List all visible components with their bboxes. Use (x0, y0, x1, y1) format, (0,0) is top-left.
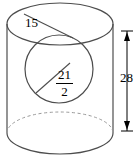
label-top-radius: 15 (25, 16, 38, 29)
fraction-denominator: 2 (56, 85, 73, 99)
hidden-dashed-ellipse (7, 112, 113, 133)
fraction-numerator: 21 (56, 68, 73, 82)
bottom-ellipse (7, 133, 113, 154)
dimension-arrow-up (124, 32, 130, 41)
fraction: 21 2 (56, 68, 73, 98)
geometry-figure: 15 28 21 2 (0, 0, 140, 167)
label-cylinder-height: 28 (120, 71, 133, 84)
top-ellipse (7, 3, 113, 45)
dimension-arrow-down (124, 121, 130, 130)
label-sphere-radius: 21 2 (56, 68, 73, 98)
